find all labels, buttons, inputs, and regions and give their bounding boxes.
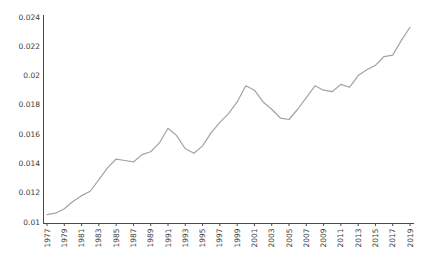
x-tick-label: 1989 (146, 228, 155, 247)
x-tick-label: 1979 (60, 228, 69, 247)
y-tick-label: 0.014 (19, 159, 41, 168)
x-tick-label: 2015 (371, 228, 380, 247)
data-series (47, 27, 410, 214)
y-tick-label: 0.016 (19, 130, 41, 139)
y-tick-label: 0.018 (19, 100, 41, 109)
x-tick-label: 2009 (319, 228, 328, 247)
x-tick-label: 2007 (302, 228, 311, 247)
x-tick-label: 1997 (215, 228, 224, 247)
x-tick-label: 1991 (164, 228, 173, 247)
line-chart: 0.010.0120.0140.0160.0180.020.0220.024 1… (0, 0, 428, 263)
x-tick-label: 1995 (198, 228, 207, 247)
y-tick-label: 0.024 (19, 13, 41, 22)
x-tick-label: 2005 (285, 228, 294, 247)
x-tick-label: 1983 (94, 228, 103, 247)
x-tick-label: 2013 (354, 228, 363, 247)
x-tick-label: 1999 (233, 228, 242, 247)
x-tick-label: 2011 (336, 228, 345, 247)
y-tick-label: 0.012 (19, 188, 41, 197)
y-tick-label: 0.022 (19, 42, 41, 51)
x-tick-label: 2019 (406, 228, 415, 247)
x-tick-label: 1981 (77, 228, 86, 247)
x-tick-label: 2003 (267, 228, 276, 247)
x-tick-label: 1985 (112, 228, 121, 247)
y-axis: 0.010.0120.0140.0160.0180.020.0220.024 (19, 13, 44, 227)
x-tick-label: 2017 (388, 228, 397, 247)
x-tick-label: 1993 (181, 228, 190, 247)
data-line (47, 27, 410, 214)
x-tick-label: 1987 (129, 228, 138, 247)
x-tick-label: 2001 (250, 228, 259, 247)
y-tick-label: 0.02 (23, 71, 40, 80)
figure: 0.010.0120.0140.0160.0180.020.0220.024 1… (0, 0, 428, 263)
x-axis: 1977197919811983198519871989199119931995… (43, 224, 415, 248)
x-tick-label: 1977 (43, 228, 52, 247)
y-tick-label: 0.01 (23, 218, 40, 227)
